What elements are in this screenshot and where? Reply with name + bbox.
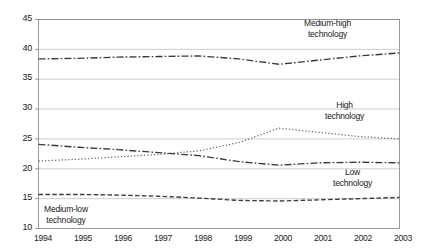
series-line-medium-high-technology [39, 53, 400, 64]
gridlines [39, 20, 400, 199]
axis-lines [35, 20, 400, 229]
technology-share-line-chart: 45 40 35 30 25 20 15 10 1994 1995 1996 1… [0, 0, 422, 249]
series-line-high-technology [39, 128, 400, 161]
plot-area [0, 0, 422, 249]
series-line-low-technology [39, 144, 400, 165]
axis-frame [39, 20, 400, 229]
series-line-medium-low-technology [39, 194, 400, 201]
series-lines [39, 53, 400, 201]
